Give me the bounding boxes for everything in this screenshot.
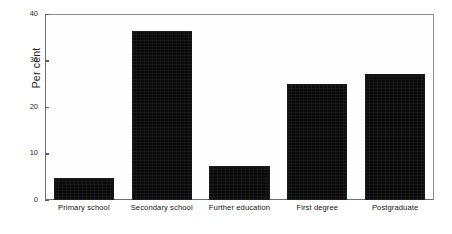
y-axis-tick: 10	[0, 154, 45, 155]
y-axis-tick: 0	[0, 200, 45, 201]
x-axis-category-label: First degree	[296, 203, 338, 212]
x-axis-category-label: Postgraduate	[372, 203, 418, 212]
bars-layer: Primary schoolSecondary schoolFurther ed…	[45, 14, 434, 200]
bar[interactable]	[365, 74, 425, 200]
y-axis-tick-label: 0	[34, 195, 38, 204]
bar[interactable]	[209, 166, 269, 200]
y-axis-tick-label: 40	[30, 9, 38, 18]
x-axis-category-label: Primary school	[58, 203, 110, 212]
bar-group[interactable]: Secondary school	[132, 14, 192, 200]
y-axis-tick: 30	[0, 61, 45, 62]
bar-group[interactable]: Postgraduate	[365, 14, 425, 200]
x-axis-category-label: Secondary school	[131, 203, 193, 212]
x-axis-category-label: Further education	[209, 203, 270, 212]
bar[interactable]	[132, 31, 192, 200]
bar-group[interactable]: Further education	[209, 14, 269, 200]
bar-group[interactable]: Primary school	[54, 14, 114, 200]
bar-chart-figure: Per cent 010203040 Primary schoolSeconda…	[0, 0, 452, 234]
bar[interactable]	[54, 178, 114, 200]
bar[interactable]	[287, 84, 347, 200]
y-axis-tick-label: 10	[30, 148, 38, 157]
y-axis-tick-label: 30	[30, 55, 38, 64]
y-axis-tick-label: 20	[30, 102, 38, 111]
y-axis-title: Per cent	[30, 23, 42, 113]
y-axis-tick: 20	[0, 107, 45, 108]
bar-group[interactable]: First degree	[287, 14, 347, 200]
y-axis-tick: 40	[0, 14, 45, 15]
